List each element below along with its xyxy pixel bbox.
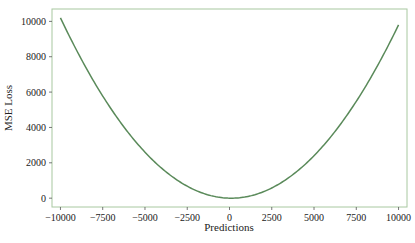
y-axis-label: MSE Loss [2,85,14,131]
x-axis-label: Predictions [204,221,254,233]
y-tick-label: 2000 [26,157,46,168]
x-tick-label: −7500 [90,212,116,223]
x-tick-label: 7500 [346,212,366,223]
mse-loss-chart: 0200040006000800010000 −10000−7500−5000−… [0,0,415,243]
y-tick-label: 10000 [21,16,46,27]
x-tick-label: −2500 [174,212,200,223]
y-tick-label: 0 [41,193,46,204]
y-tick-label: 6000 [26,87,46,98]
plot-frame [52,9,407,207]
x-tick-label: −10000 [45,212,76,223]
y-tick-label: 4000 [26,122,46,133]
x-tick-label: −5000 [132,212,158,223]
x-tick-label: 5000 [304,212,324,223]
x-tick-label: 2500 [262,212,282,223]
loss-curve [60,18,398,198]
y-tick-label: 8000 [26,51,46,62]
x-tick-label: 10000 [386,212,411,223]
